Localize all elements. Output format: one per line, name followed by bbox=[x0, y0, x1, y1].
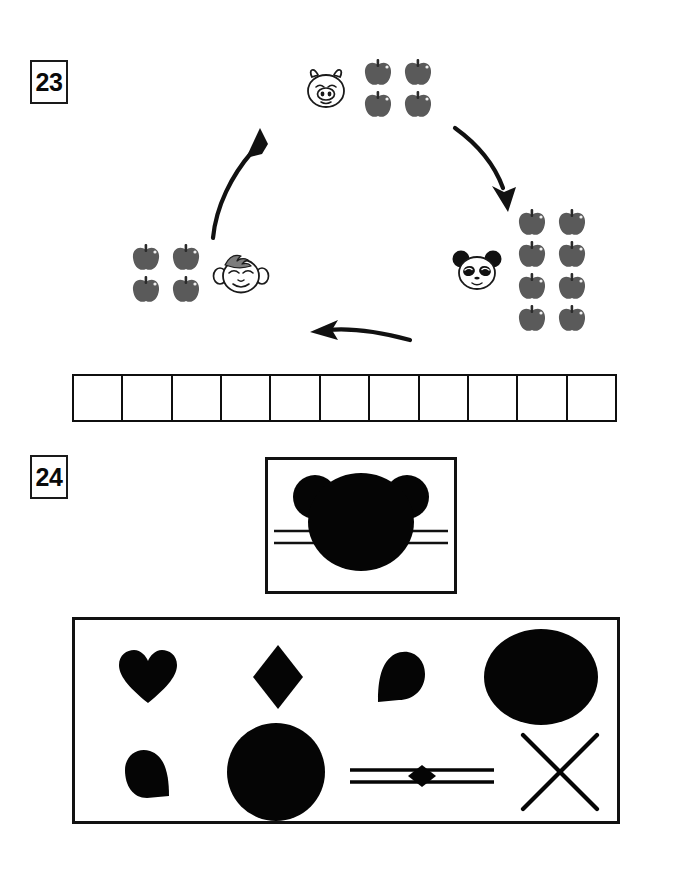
apple-icon bbox=[362, 58, 394, 88]
apple-group-pig bbox=[362, 58, 436, 120]
ellipse-shape-icon bbox=[483, 628, 599, 726]
answer-cell[interactable] bbox=[568, 376, 615, 420]
apple-icon bbox=[170, 275, 202, 305]
question-number-24: 24 bbox=[30, 455, 68, 499]
answer-cell[interactable] bbox=[469, 376, 518, 420]
teardrop-shape-2-icon bbox=[123, 748, 173, 804]
teardrop-shape-icon bbox=[377, 650, 427, 704]
apple-icon bbox=[516, 272, 548, 302]
apple-group-panda bbox=[516, 208, 590, 334]
answer-strip[interactable] bbox=[72, 374, 617, 422]
apple-group-monkey bbox=[130, 243, 204, 305]
parallel-lines-with-diamond-shape-icon bbox=[348, 759, 496, 793]
answer-cell[interactable] bbox=[321, 376, 370, 420]
cycle-diagram bbox=[0, 40, 687, 370]
apple-icon bbox=[516, 240, 548, 270]
shape-slot-lines-diamond[interactable] bbox=[347, 732, 497, 820]
shape-slot-teardrop[interactable] bbox=[347, 632, 457, 722]
apple-icon bbox=[556, 208, 588, 238]
answer-cell[interactable] bbox=[518, 376, 567, 420]
apple-icon bbox=[556, 304, 588, 334]
answer-cell[interactable] bbox=[222, 376, 271, 420]
circle-shape-icon bbox=[226, 722, 326, 822]
answer-cell[interactable] bbox=[123, 376, 172, 420]
apple-icon bbox=[516, 304, 548, 334]
apple-icon bbox=[170, 243, 202, 273]
shape-slot-diamond[interactable] bbox=[223, 632, 333, 722]
shape-slot-teardrop-2[interactable] bbox=[93, 732, 203, 820]
shape-options-panel bbox=[72, 617, 620, 824]
cycle-node-monkey bbox=[130, 243, 270, 305]
apple-icon bbox=[130, 275, 162, 305]
panda-face-icon bbox=[450, 245, 504, 297]
target-figure-box bbox=[265, 457, 457, 594]
question-number-24-label: 24 bbox=[36, 465, 63, 490]
cat-head-silhouette-icon bbox=[268, 460, 454, 591]
shape-slot-cross[interactable] bbox=[505, 724, 615, 820]
apple-icon bbox=[556, 240, 588, 270]
apple-icon bbox=[556, 272, 588, 302]
shape-slot-heart[interactable] bbox=[93, 632, 203, 722]
apple-icon bbox=[516, 208, 548, 238]
apple-icon bbox=[402, 90, 434, 120]
arrow-panda-to-monkey-icon bbox=[310, 320, 410, 340]
arrow-monkey-to-pig-icon bbox=[213, 128, 268, 238]
apple-icon bbox=[362, 90, 394, 120]
heart-shape-icon bbox=[117, 648, 179, 706]
x-cross-shape-icon bbox=[519, 731, 601, 813]
answer-cell[interactable] bbox=[370, 376, 419, 420]
cycle-node-pig bbox=[300, 58, 436, 120]
answer-cell[interactable] bbox=[271, 376, 320, 420]
worksheet-page: 23 bbox=[0, 0, 687, 871]
arrow-pig-to-panda-icon bbox=[455, 128, 516, 212]
cycle-node-panda bbox=[450, 208, 590, 334]
apple-icon bbox=[130, 243, 162, 273]
answer-cell[interactable] bbox=[74, 376, 123, 420]
answer-cell[interactable] bbox=[420, 376, 469, 420]
shape-slot-ellipse[interactable] bbox=[471, 624, 611, 729]
diamond-shape-icon bbox=[252, 644, 304, 710]
apple-icon bbox=[402, 58, 434, 88]
monkey-face-icon bbox=[212, 247, 270, 301]
shape-slot-circle[interactable] bbox=[211, 720, 341, 824]
answer-cell[interactable] bbox=[173, 376, 222, 420]
pig-face-icon bbox=[300, 63, 352, 115]
